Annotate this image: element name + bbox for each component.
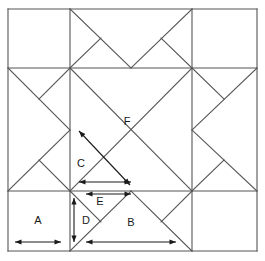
quilt-block-diagram: ABCDEF: [0, 0, 265, 261]
arrow-head-start-E: [86, 191, 93, 196]
piece-label-F: F: [124, 115, 131, 127]
piece-label-E: E: [96, 195, 103, 207]
diagonal-line-left-half-top: [39, 68, 70, 99]
grid-lines-group: [8, 9, 257, 251]
diagonal-line-right-half-top: [192, 68, 224, 99]
diagonal-line-top-half-right: [161, 38, 192, 68]
arrow-head-start-B: [86, 239, 93, 244]
diagonal-line-right-half-bot: [192, 160, 224, 191]
arrow-shaft-F: [79, 131, 130, 185]
piece-label-A: A: [34, 214, 42, 226]
arrow-head-start-D: [71, 198, 76, 205]
piece-label-B: B: [127, 216, 134, 228]
dimension-arrow-E: [86, 191, 131, 196]
diagonal-lines-group: [8, 9, 257, 251]
dimension-arrows-group: [15, 131, 176, 245]
arrow-head-start-A: [15, 239, 22, 244]
arrow-head-end-D: [71, 236, 76, 243]
dimension-arrow-D: [71, 198, 76, 242]
piece-label-C: C: [77, 157, 85, 169]
diagonal-line-left-half-bot: [39, 160, 70, 191]
diagonal-line-top-half-left: [70, 38, 101, 68]
dimension-arrow-B: [86, 239, 176, 244]
piece-labels-group: ABCDEF: [34, 115, 134, 228]
piece-label-D: D: [82, 214, 90, 226]
dimension-arrow-C: [79, 179, 131, 184]
arrow-head-end-A: [55, 239, 62, 244]
diagonal-line-bot-half-right: [161, 191, 192, 222]
arrow-head-end-B: [170, 239, 177, 244]
dimension-arrow-F: [79, 131, 130, 185]
diagram-canvas: ABCDEF: [0, 0, 265, 261]
dimension-arrow-A: [15, 239, 61, 244]
